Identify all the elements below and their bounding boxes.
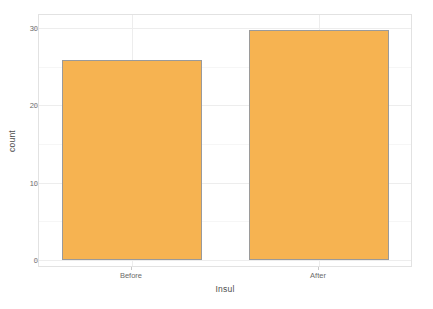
y-tick-label-0: 0 bbox=[4, 256, 38, 265]
bar-chart-figure: count 30 20 10 0 Before After bbox=[0, 0, 433, 309]
x-tick-mark-after bbox=[318, 267, 319, 270]
x-tick-label-before: Before bbox=[120, 271, 142, 280]
y-tick-label-20: 20 bbox=[4, 101, 38, 110]
y-axis-tick-group: 30 20 10 0 bbox=[0, 0, 38, 309]
x-axis-title: Insul bbox=[38, 284, 412, 294]
gridline-y-0 bbox=[39, 260, 411, 261]
bar-after[interactable] bbox=[249, 30, 389, 260]
bar-before[interactable] bbox=[62, 60, 202, 260]
plot-panel bbox=[38, 14, 412, 267]
y-tick-label-10: 10 bbox=[4, 178, 38, 187]
x-tick-mark-before bbox=[131, 267, 132, 270]
y-tick-label-30: 30 bbox=[4, 24, 38, 33]
x-axis-tick-group bbox=[38, 267, 412, 271]
x-tick-label-after: After bbox=[310, 271, 326, 280]
